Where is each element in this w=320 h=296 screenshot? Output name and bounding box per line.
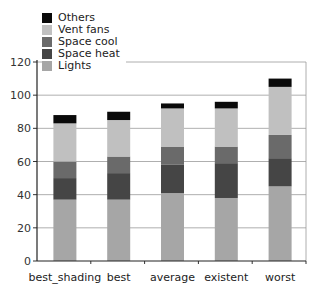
bar-segment-others — [269, 79, 292, 87]
bar-segment-vent-fans — [107, 120, 130, 156]
x-tick-label: existent — [204, 271, 249, 284]
bar-segment-others — [107, 112, 130, 120]
x-tick-label: worst — [265, 271, 296, 284]
bar-segment-space-cool — [107, 157, 130, 174]
bar-segment-space-cool — [269, 135, 292, 158]
legend-label: Lights — [58, 60, 91, 72]
x-tick-label: best_shading — [29, 271, 102, 284]
bar-segment-space-cool — [53, 162, 76, 179]
x-tick-label: average — [150, 271, 195, 284]
bar-segment-others — [53, 115, 76, 123]
bar-segment-lights — [161, 193, 184, 261]
bar-segment-space-heat — [53, 178, 76, 200]
bar-segment-lights — [215, 198, 238, 261]
bar-segment-vent-fans — [269, 87, 292, 135]
bar-segment-others — [215, 102, 238, 109]
y-tick-label: 60 — [17, 156, 31, 169]
bar-segment-vent-fans — [215, 108, 238, 146]
bar-segment-vent-fans — [53, 123, 76, 161]
legend-swatch — [42, 25, 52, 35]
y-tick-label: 80 — [17, 122, 31, 135]
bar-segment-space-cool — [215, 147, 238, 164]
y-tick-label: 20 — [17, 222, 31, 235]
bar-segment-space-heat — [269, 158, 292, 186]
bar-segment-others — [161, 103, 184, 108]
bar-segment-lights — [53, 200, 76, 261]
legend-swatch — [42, 61, 52, 71]
y-tick-label: 100 — [10, 89, 31, 102]
stacked-bar-chart: 020406080100120best_shadingbestaverageex… — [0, 0, 320, 296]
bar-segment-space-cool — [161, 147, 184, 165]
legend-swatch — [42, 13, 52, 23]
legend-item: Lights — [42, 60, 120, 72]
y-tick-label: 0 — [24, 255, 31, 268]
y-tick-label: 120 — [10, 56, 31, 69]
legend: OthersVent fansSpace coolSpace heatLight… — [42, 12, 126, 72]
bar-segment-vent-fans — [161, 108, 184, 146]
x-tick-label: best — [107, 271, 131, 284]
legend-swatch — [42, 37, 52, 47]
y-tick-label: 40 — [17, 189, 31, 202]
bar-segment-lights — [269, 186, 292, 261]
bar-segment-space-heat — [161, 165, 184, 193]
bar-segment-lights — [107, 200, 130, 261]
bar-segment-space-heat — [107, 173, 130, 200]
bar-segment-space-heat — [215, 163, 238, 198]
legend-swatch — [42, 49, 52, 59]
